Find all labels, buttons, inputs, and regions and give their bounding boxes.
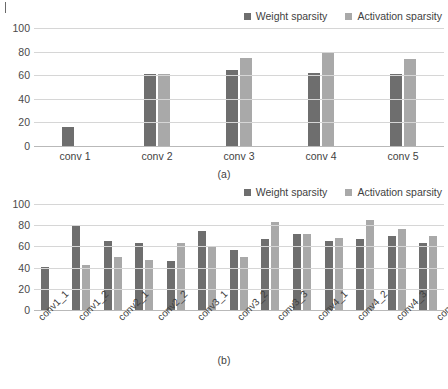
legend-swatch-weight (244, 189, 251, 196)
legend-label-weight: Weight sparsity (256, 10, 328, 22)
y-tick-label: 80 (18, 46, 30, 57)
x-tick-label: conv 5 (362, 150, 444, 162)
bar-activation-sparsity (114, 257, 122, 310)
subcaption-a: (a) (0, 168, 448, 180)
legend-item-activation-sparsity: Activation sparsity (345, 186, 442, 198)
legend-b: Weight sparsity Activation sparsity (244, 186, 442, 198)
grid-a (34, 28, 444, 146)
figure-page: Weight sparsity Activation sparsity 0204… (0, 0, 448, 389)
y-tick-label: 100 (12, 23, 30, 34)
y-tick-label: 0 (24, 305, 30, 316)
y-tick-label: 40 (18, 94, 30, 105)
bar-weight-sparsity (226, 70, 238, 146)
bar-group (34, 28, 116, 146)
bar-group (198, 28, 280, 146)
gridline (34, 246, 444, 247)
legend-item-weight-sparsity: Weight sparsity (244, 186, 328, 198)
bar-activation-sparsity (398, 229, 406, 310)
legend-swatch-activation (345, 13, 352, 20)
bar-weight-sparsity (308, 73, 320, 146)
x-tick-label: conv 3 (198, 150, 280, 162)
bar-activation-sparsity (271, 222, 279, 310)
y-tick-label: 0 (24, 141, 30, 152)
legend-item-weight-sparsity: Weight sparsity (244, 10, 328, 22)
axis-baseline (34, 146, 444, 147)
bar-activation-sparsity (240, 58, 252, 147)
chart-b: Weight sparsity Activation sparsity 0204… (0, 186, 448, 371)
chart-a: Weight sparsity Activation sparsity 0204… (0, 10, 448, 178)
y-axis-b: 020406080100 (0, 204, 34, 310)
bar-weight-sparsity (230, 250, 238, 310)
bar-group (280, 28, 362, 146)
legend-swatch-activation (345, 189, 352, 196)
gridline (34, 268, 444, 269)
y-tick-label: 20 (18, 284, 30, 295)
bars-a (34, 28, 444, 146)
legend-a: Weight sparsity Activation sparsity (244, 10, 442, 22)
bar-activation-sparsity (404, 59, 416, 146)
gridline (34, 204, 444, 205)
gridline (34, 122, 444, 123)
bar-weight-sparsity (356, 239, 364, 310)
y-axis-a: 020406080100 (0, 28, 34, 146)
y-tick-label: 60 (18, 70, 30, 81)
legend-label-activation: Activation sparsity (357, 10, 442, 22)
gridline (34, 52, 444, 53)
x-tick-label: conv 2 (116, 150, 198, 162)
y-tick-label: 40 (18, 262, 30, 273)
x-tick-label: conv 4 (280, 150, 362, 162)
gridline (34, 28, 444, 29)
subcaption-b: (b) (0, 354, 448, 366)
bar-weight-sparsity (144, 74, 156, 146)
bar-group (116, 28, 198, 146)
gridline (34, 75, 444, 76)
legend-item-activation-sparsity: Activation sparsity (345, 10, 442, 22)
y-tick-label: 20 (18, 117, 30, 128)
plot-area-a: 020406080100 (0, 28, 448, 146)
legend-label-activation: Activation sparsity (357, 186, 442, 198)
bar-weight-sparsity (390, 74, 402, 146)
bar-weight-sparsity (198, 231, 206, 311)
gridline (34, 225, 444, 226)
y-tick-label: 80 (18, 220, 30, 231)
bar-group (362, 28, 444, 146)
y-tick-label: 100 (12, 199, 30, 210)
bar-activation-sparsity (158, 74, 170, 146)
gridline (34, 99, 444, 100)
bar-group (66, 204, 98, 310)
y-tick-label: 60 (18, 241, 30, 252)
legend-label-weight: Weight sparsity (256, 186, 328, 198)
bar-weight-sparsity (62, 127, 74, 146)
x-axis-labels-a: conv 1conv 2conv 3conv 4conv 5 (34, 150, 444, 162)
legend-swatch-weight (244, 13, 251, 20)
x-tick-label: conv 1 (34, 150, 116, 162)
